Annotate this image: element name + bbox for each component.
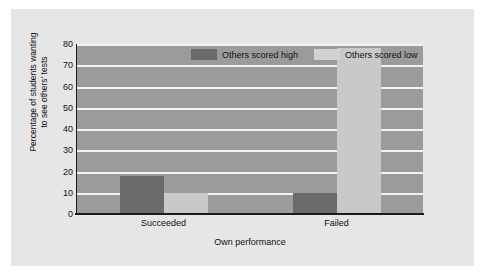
legend-entry-others-scored-low: Others scored low xyxy=(314,49,418,60)
y-tick-label-80: 80 xyxy=(51,40,73,49)
x-axis-line xyxy=(75,213,424,215)
y-tick-label-30: 30 xyxy=(51,146,73,155)
legend-label-high: Others scored high xyxy=(222,50,298,60)
legend-swatch-low-icon xyxy=(314,49,340,60)
x-axis-category-succeeded: Succeeded xyxy=(119,218,209,228)
y-tick-label-20: 20 xyxy=(51,168,73,177)
plot-area xyxy=(77,44,423,214)
y-tick-label-70: 70 xyxy=(51,61,73,70)
legend-entry-others-scored-high: Others scored high xyxy=(191,49,298,60)
bar-succeeded-low xyxy=(164,193,208,214)
y-tick-label-10: 10 xyxy=(51,189,73,198)
x-axis-title: Own performance xyxy=(77,237,423,247)
bar-succeeded-high xyxy=(120,176,164,214)
legend-label-low: Others scored low xyxy=(345,50,418,60)
y-tick-label-40: 40 xyxy=(51,125,73,134)
bar-failed-high xyxy=(293,193,337,214)
y-axis-ticks: 01020304050607080 xyxy=(47,9,73,276)
x-axis-category-failed: Failed xyxy=(292,218,382,228)
y-tick-label-50: 50 xyxy=(51,104,73,113)
y-tick-label-60: 60 xyxy=(51,83,73,92)
legend-swatch-high-icon xyxy=(191,49,217,60)
gridline-80 xyxy=(77,44,423,46)
figure-card: Percentage of students wanting to see ot… xyxy=(11,9,474,266)
chart-legend: Others scored high Others scored low xyxy=(191,49,428,60)
bar-failed-low xyxy=(337,48,381,214)
y-axis-title-line-1: Percentage of students wanting xyxy=(28,17,39,167)
y-axis-line xyxy=(76,44,77,214)
y-tick-label-0: 0 xyxy=(51,210,73,219)
